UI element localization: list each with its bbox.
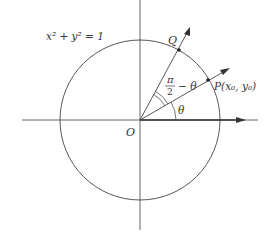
angle-theta-label: θ [178,104,185,116]
point-q-dot [177,48,181,52]
angle-complement-numerator: π [166,74,174,85]
ray-oq-arrow-icon [184,27,190,36]
ray-op-arrow-icon [220,68,230,75]
unit-circle-diagram: x² + y² = 1 O P(x₀, y₀) Q θ π 2 − θ [0,0,272,241]
equation-label: x² + y² = 1 [46,30,104,42]
point-q-label: Q [168,34,177,47]
origin-label: O [126,126,135,139]
angle-complement-arc-1 [153,94,165,106]
point-p-dot [206,78,210,82]
angle-complement-rest: − θ [178,80,197,92]
point-p-label: P(x₀, y₀) [213,80,256,92]
angle-theta-arc [171,102,176,120]
x-ray-arrow-icon [236,117,246,123]
angle-complement-denominator: 2 [167,87,173,97]
